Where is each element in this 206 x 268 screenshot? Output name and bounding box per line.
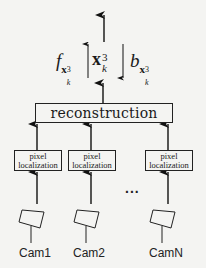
pixel-localization-box-2: pixel localization — [68, 150, 116, 171]
camera-label-n: CamN — [149, 246, 183, 260]
reconstruction-label: reconstruction — [51, 105, 158, 121]
state-label: x3k — [92, 49, 109, 70]
camera-icon — [74, 210, 99, 243]
pipeline-diagram: fx3k x3k bx3k reconstruction pixel local… — [0, 0, 206, 268]
camera-label-1: Cam1 — [19, 246, 51, 260]
forward-message-label: fx3k — [56, 50, 73, 72]
pixel-localization-box-1: pixel localization — [14, 150, 62, 171]
camera-icon — [19, 210, 44, 243]
camera-label-2: Cam2 — [73, 246, 105, 260]
connector-arrows — [0, 0, 206, 268]
backward-message-label: bx3k — [130, 50, 151, 72]
camera-icon — [150, 210, 175, 243]
pixel-localization-box-n: pixel localization — [145, 150, 193, 171]
reconstruction-box: reconstruction — [35, 103, 173, 123]
ellipsis: ... — [125, 180, 140, 196]
